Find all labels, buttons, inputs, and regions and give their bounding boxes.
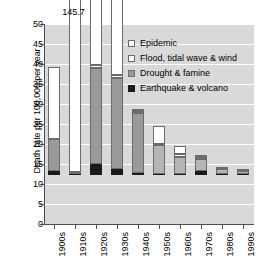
overflow-value-label: 145.7 (62, 8, 85, 17)
bar-segment (111, 169, 123, 175)
legend-swatch-icon (128, 70, 135, 77)
legend-swatch-icon (128, 85, 135, 92)
bar-segment (132, 113, 144, 173)
x-tick-mark (54, 225, 55, 229)
chart-legend: EpidemicFlood, tidal wave & windDrought … (128, 37, 260, 97)
legend-swatch-icon (128, 40, 135, 47)
x-tick-label: 1940s (142, 232, 151, 257)
bar-segment (174, 154, 186, 157)
bar-segment (195, 155, 207, 157)
bar-segment (195, 159, 207, 171)
x-tick-label: 1960s (184, 232, 193, 257)
x-tick-label: 1900s (58, 232, 67, 257)
bar-segment (132, 109, 144, 111)
bar-segment (69, 172, 81, 174)
bar-segment (69, 0, 81, 172)
x-tick-label: 1970s (205, 232, 214, 257)
legend-label: Epidemic (140, 39, 177, 48)
x-tick-mark (243, 225, 244, 229)
x-tick-mark (222, 225, 223, 229)
bar-slot (107, 0, 128, 175)
bar-segment (90, 65, 102, 67)
legend-label: Flood, tidal wave & wind (140, 54, 237, 63)
bar-segment (174, 146, 186, 154)
bar-slot (86, 0, 107, 175)
x-tick-label: 1930s (121, 232, 130, 257)
bar-segment (48, 139, 60, 171)
x-tick-mark (159, 225, 160, 229)
legend-item: Drought & famine (128, 67, 260, 80)
bar-segment (111, 78, 123, 169)
legend-swatch-icon (128, 55, 135, 62)
bar-segment (174, 157, 186, 174)
bar-segment (237, 169, 249, 171)
bar-segment (90, 0, 102, 65)
bar-segment (48, 67, 60, 139)
x-tick-mark (117, 225, 118, 229)
bar-1910s[interactable] (69, 0, 81, 175)
bar-segment (111, 0, 123, 75)
bar-segment (132, 173, 144, 175)
bar-slot (44, 0, 65, 175)
chart-container: Death rate per 100,000 per year 50454035… (0, 0, 264, 274)
x-tick-label: 1920s (100, 232, 109, 257)
x-tick-mark (75, 225, 76, 229)
x-tick-mark (96, 225, 97, 229)
x-tick-label: 1980s (226, 232, 235, 257)
bar-segment (90, 164, 102, 175)
bar-slot (65, 0, 86, 175)
x-tick-mark (180, 225, 181, 229)
x-tick-mark (201, 225, 202, 229)
bar-segment (237, 171, 249, 175)
bar-segment (216, 169, 228, 174)
bar-segment (195, 157, 207, 159)
x-tick-label: 1910s (79, 232, 88, 257)
bar-segment (111, 75, 123, 77)
legend-item: Epidemic (128, 37, 260, 50)
bar-segment (216, 167, 228, 169)
bar-segment (153, 145, 165, 174)
x-tick-mark (138, 225, 139, 229)
bar-segment (153, 126, 165, 144)
bars-layer (44, 0, 253, 225)
x-tick-label: 1950s (163, 232, 172, 257)
bar-segment (195, 171, 207, 175)
x-tick-label: 1990s (247, 232, 256, 257)
bar-segment (90, 68, 102, 164)
legend-label: Earthquake & volcano (140, 84, 228, 93)
legend-label: Drought & famine (140, 69, 210, 78)
legend-item: Earthquake & volcano (128, 82, 260, 95)
bar-segment (48, 171, 60, 175)
legend-item: Flood, tidal wave & wind (128, 52, 260, 65)
